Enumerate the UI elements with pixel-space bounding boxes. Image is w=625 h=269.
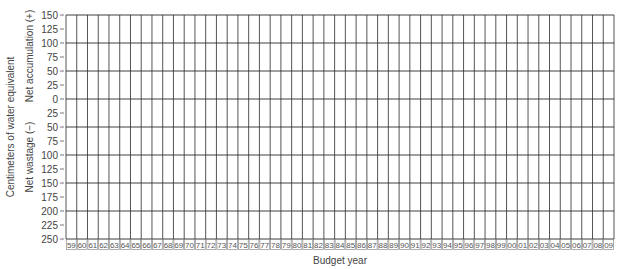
y-tick-label: 100 [41, 150, 58, 161]
year-label: 97 [475, 241, 484, 250]
year-label: 88 [379, 241, 388, 250]
year-label: 69 [174, 241, 183, 250]
y-tick-label: 0 [52, 94, 58, 105]
year-label: 02 [529, 241, 538, 250]
y-tick-label: 225 [41, 220, 58, 231]
year-label: 91 [411, 241, 420, 250]
y-tick-label: 150 [41, 10, 58, 21]
y-tick-label: 50 [47, 122, 59, 133]
y-tick-label: 75 [47, 52, 59, 63]
y-tick-label: 200 [41, 206, 58, 217]
year-label: 82 [314, 241, 323, 250]
year-label: 04 [550, 241, 559, 250]
year-label: 60 [78, 241, 87, 250]
year-label: 06 [572, 241, 581, 250]
y-axis-lower-label: Net wastage (−) [24, 122, 35, 193]
year-label: 80 [293, 241, 302, 250]
x-axis-year-labels: 5960616263646566676869707172737475767778… [67, 240, 614, 250]
y-tick-label: 75 [47, 136, 59, 147]
year-label: 98 [486, 241, 495, 250]
year-label: 74 [228, 241, 237, 250]
year-label: 92 [422, 241, 431, 250]
year-label: 07 [583, 241, 592, 250]
year-label: 03 [540, 241, 549, 250]
glacier-mass-balance-grid-chart: Centimeters of water equivalent Net accu… [0, 0, 625, 269]
year-label: 78 [271, 241, 280, 250]
y-tick-label: 150 [41, 178, 58, 189]
year-label: 01 [518, 241, 527, 250]
year-label: 71 [196, 241, 205, 250]
y-axis-title: Centimeters of water equivalent [5, 56, 16, 197]
year-label: 84 [336, 241, 345, 250]
year-label: 95 [454, 241, 463, 250]
year-label: 59 [67, 241, 76, 250]
year-label: 08 [593, 241, 602, 250]
year-label: 70 [185, 241, 194, 250]
year-label: 87 [368, 241, 377, 250]
year-label: 72 [207, 241, 216, 250]
year-label: 79 [282, 241, 291, 250]
year-label: 09 [604, 241, 613, 250]
horizontal-gridlines [66, 15, 614, 239]
y-tick-label: 250 [41, 234, 58, 245]
y-tick-label: 50 [47, 66, 59, 77]
year-label: 66 [142, 241, 151, 250]
year-label: 86 [357, 241, 366, 250]
y-tick-label: 125 [41, 24, 58, 35]
year-label: 89 [389, 241, 398, 250]
year-label: 77 [260, 241, 269, 250]
y-tick-label: 125 [41, 164, 58, 175]
y-tick-label: 25 [47, 108, 59, 119]
year-label: 90 [400, 241, 409, 250]
y-axis-upper-label: Net accumulation (+) [24, 10, 35, 103]
year-label: 94 [443, 241, 452, 250]
y-axis-ticks: 1501251007550250255075100125150175200225… [41, 10, 64, 245]
year-label: 68 [164, 241, 173, 250]
year-label: 05 [561, 241, 570, 250]
year-label: 73 [217, 241, 226, 250]
year-label: 85 [346, 241, 355, 250]
year-label: 64 [121, 241, 130, 250]
year-label: 67 [153, 241, 162, 250]
year-label: 99 [497, 241, 506, 250]
year-label: 61 [88, 241, 97, 250]
year-label: 75 [239, 241, 248, 250]
y-tick-label: 100 [41, 38, 58, 49]
year-label: 00 [507, 241, 516, 250]
year-label: 83 [325, 241, 334, 250]
year-label: 63 [110, 241, 119, 250]
year-label: 76 [250, 241, 259, 250]
year-label: 93 [432, 241, 441, 250]
year-label: 62 [99, 241, 108, 250]
y-tick-label: 175 [41, 192, 58, 203]
year-label: 81 [303, 241, 312, 250]
year-label: 65 [131, 241, 140, 250]
year-label: 96 [464, 241, 473, 250]
y-tick-label: 25 [47, 80, 59, 91]
y-axis-title-group: Centimeters of water equivalent Net accu… [5, 10, 35, 198]
x-axis-title: Budget year [313, 255, 368, 266]
